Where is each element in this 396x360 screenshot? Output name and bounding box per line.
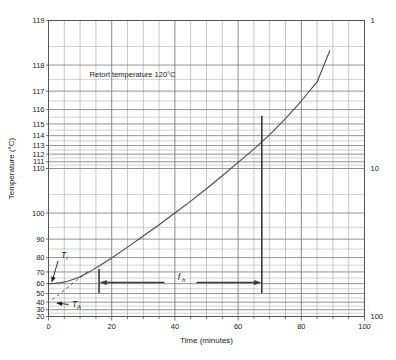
- y-tick-60: 60: [36, 279, 44, 288]
- y-right-tick-100: 100: [371, 312, 384, 321]
- y-tick-115: 115: [33, 120, 45, 129]
- y-tick-116: 116: [33, 105, 45, 114]
- retort-temperature-note: Retort temperature 120°C: [90, 70, 177, 79]
- x-tick-40: 40: [171, 322, 179, 331]
- x-tick-100: 100: [358, 322, 371, 331]
- y-right-tick-10: 10: [371, 164, 379, 173]
- y-right-tick-1: 1: [371, 16, 375, 25]
- y-tick-70: 70: [36, 268, 44, 277]
- y-tick-90: 90: [36, 235, 44, 244]
- y-tick-118: 118: [33, 61, 45, 70]
- x-axis-title: Time (minutes): [180, 336, 233, 345]
- x-tick-0: 0: [46, 322, 50, 331]
- y-axis-title: Temperature (°C): [7, 137, 16, 199]
- heat-penetration-chart: 1191181171161151141131121111101009080706…: [0, 0, 396, 360]
- ambient-temperature-subscript: A: [76, 304, 81, 310]
- y-tick-100: 100: [32, 209, 45, 218]
- y-tick-20: 20: [36, 312, 44, 321]
- x-tick-20: 20: [108, 322, 116, 331]
- x-tick-60: 60: [234, 322, 242, 331]
- x-tick-80: 80: [297, 322, 305, 331]
- chart-canvas: 1191181171161151141131121111101009080706…: [0, 0, 396, 360]
- y-tick-110: 110: [33, 164, 45, 173]
- y-tick-114: 114: [33, 131, 45, 140]
- y-tick-117: 117: [33, 87, 45, 96]
- y-tick-119: 119: [33, 16, 45, 25]
- y-tick-80: 80: [36, 253, 44, 262]
